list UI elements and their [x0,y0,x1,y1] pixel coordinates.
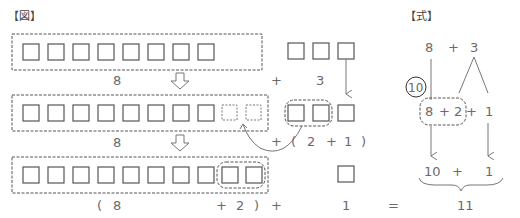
square [148,105,164,121]
eight: 8 [113,198,121,213]
square [222,167,238,183]
square [23,167,39,183]
square [23,105,39,121]
figure-header: 【図】 [8,10,41,23]
brace-icon [419,178,503,191]
row1-plus: + [271,73,282,88]
square [173,44,189,60]
formula-mid-c: 1 [485,104,493,119]
close-paren: ) [254,198,259,213]
row2-right-squares [288,105,354,121]
split-line-right [474,57,488,93]
square [148,44,164,60]
formula-header: 【式】 [405,10,438,23]
formula-mid-op1: + [439,104,450,119]
square [98,105,114,121]
formula-top-a: 8 [425,40,433,55]
row2-open-paren: ( [291,134,296,149]
square [73,44,89,60]
row2-two: 2 [307,134,315,149]
square [173,105,189,121]
empty-slot [246,105,261,120]
square [198,105,214,121]
row2-plus2: + [326,134,337,149]
square [98,44,114,60]
square [23,44,39,60]
square [338,43,354,59]
row3-squares [23,167,262,183]
row1-right-label: 3 [316,73,324,88]
split-line-left [459,57,474,93]
formula-top-b: 3 [470,40,478,55]
row1: 8 + 3 [12,34,354,94]
row2-close-paren: ) [361,134,366,149]
remaining-square [338,166,354,182]
row2-one: 1 [344,134,352,149]
square [173,167,189,183]
square [338,105,354,121]
row1-left-squares [23,44,214,60]
row2-plus: + [271,134,282,149]
square [48,44,64,60]
square [73,105,89,121]
square [123,44,139,60]
result: 11 [457,198,474,213]
formula-mid-b: 2 [454,104,462,119]
row2-left-squares [23,105,261,121]
down-arrow-icon [171,73,189,89]
row1-right-squares [288,43,354,59]
equals: = [388,198,399,213]
formula-low-op: + [452,164,463,179]
formula-mid-op2: + [466,104,477,119]
square [246,167,262,183]
two: 2 [236,198,244,213]
plus-two-op: + [216,198,227,213]
square [123,167,139,183]
diagram-canvas: 【図】 【式】 8 + 3 [0,0,520,218]
square [148,167,164,183]
square [123,105,139,121]
square [313,43,329,59]
square [198,167,214,183]
square [288,105,304,121]
square [313,105,329,121]
row1-left-label: 8 [113,73,121,88]
formula-mid-a: 8 [425,104,433,119]
square [48,167,64,183]
square [98,167,114,183]
formula-low-b: 1 [485,164,493,179]
square [48,105,64,121]
formula-low-a: 10 [424,164,441,179]
square [198,44,214,60]
row2-left-label: 8 [113,135,121,150]
circle-label: 10 [408,81,423,95]
one: 1 [342,198,350,213]
square [73,167,89,183]
open-paren: ( [97,198,102,213]
row3 [12,157,354,193]
row2: 8 + ( 2 + 1 ) [12,95,366,151]
formula-panel: 8 + 3 10 8 + 2 + 1 10 + 1 [406,40,503,191]
empty-slot [222,105,237,120]
formula-top-op: + [448,40,459,55]
plus: + [271,198,282,213]
bottom-expression: ( 8 + 2 ) + 1 = 11 [97,198,474,213]
square [288,43,304,59]
down-arrow-icon [171,135,189,151]
